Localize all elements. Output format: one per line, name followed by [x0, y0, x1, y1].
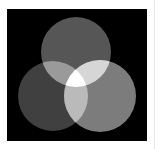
- venn-diagram: [7, 9, 147, 141]
- image-frame: [0, 0, 159, 149]
- venn-svg: [7, 9, 147, 141]
- divider-line: [154, 0, 155, 149]
